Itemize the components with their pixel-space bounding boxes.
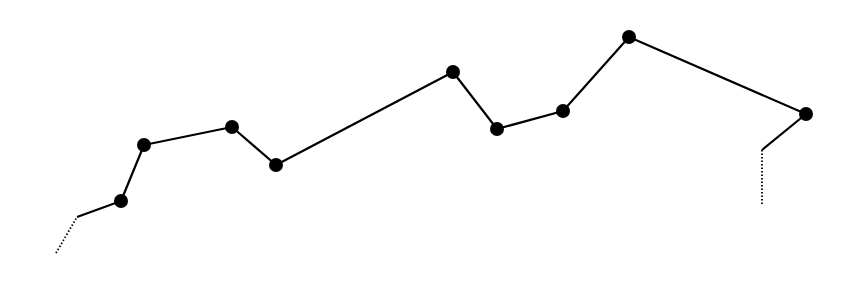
data-point-marker [490,122,504,136]
data-point-marker [114,194,128,208]
data-point-marker [622,30,636,44]
data-markers [114,30,813,208]
lead-in-dotted-segment [56,217,77,253]
lead-in-solid-segment [77,201,121,217]
series-line [121,37,806,201]
data-point-marker [269,158,283,172]
data-point-marker [799,107,813,121]
lead-out-solid-segment [762,114,806,150]
data-point-marker [225,120,239,134]
data-point-marker [556,104,570,118]
lead-segments [56,114,806,253]
data-point-marker [446,65,460,79]
line-chart [0,0,863,294]
data-point-marker [137,138,151,152]
